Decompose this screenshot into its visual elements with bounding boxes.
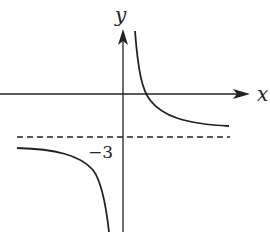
y-axis-label: y bbox=[114, 3, 127, 27]
graph-canvas: x y −3 bbox=[0, 0, 270, 232]
x-axis-label: x bbox=[257, 82, 268, 106]
curve-upper-right-branch bbox=[135, 31, 229, 126]
asymptote-value-label: −3 bbox=[88, 142, 113, 162]
